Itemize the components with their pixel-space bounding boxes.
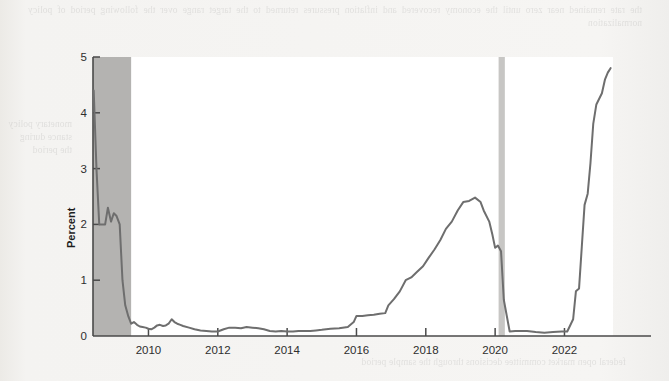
x-tick-label: 2018 <box>413 344 439 356</box>
scanned-page: the rate remained near zero until the ec… <box>0 0 669 381</box>
y-tick-label: 3 <box>81 163 87 175</box>
y-axis-title: Percent <box>65 207 77 248</box>
x-tick-label: 2014 <box>274 344 300 356</box>
y-tick-label: 0 <box>81 330 87 342</box>
chart-svg: 2010201220142016201820202022 012345 Perc… <box>0 0 669 381</box>
x-tick-label: 2016 <box>344 344 370 356</box>
y-tick-label: 5 <box>81 51 87 63</box>
plot-area <box>93 57 613 336</box>
x-tick-label: 2012 <box>205 344 231 356</box>
x-tick-label: 2020 <box>482 344 508 356</box>
line-chart: 2010201220142016201820202022 012345 Perc… <box>0 0 669 381</box>
x-tick-label: 2022 <box>552 344 578 356</box>
y-tick-label: 1 <box>81 274 87 286</box>
y-tick-label: 2 <box>81 218 87 230</box>
y-tick-label: 4 <box>81 107 88 119</box>
plot-background <box>93 57 613 336</box>
y-axis-tick-labels: 012345 <box>81 51 88 342</box>
x-tick-label: 2010 <box>136 344 162 356</box>
x-axis-tick-labels: 2010201220142016201820202022 <box>136 344 578 356</box>
